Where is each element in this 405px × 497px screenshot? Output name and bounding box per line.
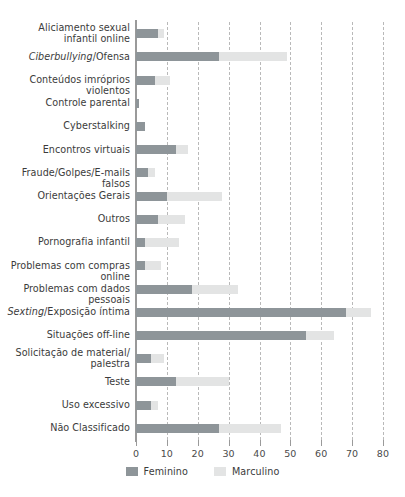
x-tick-label-50: 50 [284, 448, 297, 459]
bar-feminino [136, 192, 167, 201]
bar-feminino [136, 52, 219, 61]
bar-row [136, 168, 383, 177]
category-label-part: Ciberbullying [29, 51, 93, 62]
legend-item-feminino[interactable]: Feminino [126, 466, 188, 477]
bar-feminino [136, 424, 219, 433]
x-tick-30 [229, 440, 230, 446]
bar-feminino [136, 215, 158, 224]
gridline-80 [383, 22, 384, 440]
category-label: Uso excessivo [0, 399, 130, 410]
bar-feminino [136, 29, 158, 38]
category-label-line: Problemas com compras online [0, 260, 130, 283]
category-label: Encontros virtuais [0, 144, 130, 155]
bar-feminino [136, 331, 306, 340]
bar-feminino [136, 285, 192, 294]
category-label-line: Conteúdos imróprios violentos [0, 74, 130, 97]
category-label: Sexting/Exposição íntima [0, 306, 130, 317]
bar-row [136, 52, 383, 61]
category-label-line: Outros [0, 213, 130, 224]
x-tick-label-70: 70 [346, 448, 359, 459]
bar-row [136, 424, 383, 433]
category-label-line: Aliciamento sexual [0, 22, 130, 33]
bar-row [136, 261, 383, 270]
category-label: Solicitação de material/palestra [0, 347, 130, 370]
legend-swatch-icon [126, 467, 138, 476]
category-label: Outros [0, 213, 130, 224]
horizontal-bar-chart: Aliciamento sexualinfantil onlineCiberbu… [0, 0, 405, 497]
bar-feminino [136, 354, 151, 363]
bar-row [136, 145, 383, 154]
x-tick-label-30: 30 [222, 448, 235, 459]
category-label: Problemas com compras online [0, 260, 130, 283]
category-label-line: Encontros virtuais [0, 144, 130, 155]
bar-feminino [136, 377, 176, 386]
category-label: Problemas com dados pessoais [0, 283, 130, 306]
legend-label: Feminino [144, 466, 188, 477]
x-tick-70 [352, 440, 353, 446]
category-label: Situações off-line [0, 329, 130, 340]
category-label: Controle parental [0, 97, 130, 108]
bar-row [136, 192, 383, 201]
category-label-line: Cyberstalking [0, 120, 130, 131]
bar-row [136, 377, 383, 386]
x-tick-label-20: 20 [192, 448, 205, 459]
category-label: Fraude/Golpes/E-mails falsos [0, 167, 130, 190]
bar-row [136, 99, 383, 108]
x-tick-10 [167, 440, 168, 446]
category-label-line: Uso excessivo [0, 399, 130, 410]
x-tick-40 [260, 440, 261, 446]
bar-feminino [136, 401, 151, 410]
legend-swatch-icon [214, 467, 226, 476]
x-tick-label-60: 60 [315, 448, 328, 459]
category-label: Ciberbullying/Ofensa [0, 51, 130, 62]
x-tick-label-80: 80 [377, 448, 390, 459]
category-label-part: /Exposição íntima [44, 306, 130, 317]
category-label-part: /Ofensa [93, 51, 130, 62]
category-label-line: Não Classificado [0, 422, 130, 433]
plot-area: 01020304050607080 [136, 22, 383, 440]
x-tick-60 [321, 440, 322, 446]
legend-label: Marculino [232, 466, 279, 477]
bar-feminino [136, 76, 155, 85]
bar-feminino [136, 261, 145, 270]
bar-feminino [136, 238, 145, 247]
category-label-line: Controle parental [0, 97, 130, 108]
category-label-line: Fraude/Golpes/E-mails falsos [0, 167, 130, 190]
x-tick-label-10: 10 [161, 448, 174, 459]
category-label-line: Problemas com dados pessoais [0, 283, 130, 306]
category-label-line: Situações off-line [0, 329, 130, 340]
bar-row [136, 215, 383, 224]
category-label: Cyberstalking [0, 120, 130, 131]
category-label: Conteúdos imróprios violentos [0, 74, 130, 97]
bar-row [136, 76, 383, 85]
x-tick-50 [290, 440, 291, 446]
category-label: Pornografia infantil [0, 236, 130, 247]
x-tick-0 [136, 440, 137, 446]
category-label: Não Classificado [0, 422, 130, 433]
category-label-part: Sexting [7, 306, 44, 317]
x-tick-20 [198, 440, 199, 446]
category-label-line: Orientações Gerais [0, 190, 130, 201]
category-label-line: Pornografia infantil [0, 236, 130, 247]
category-label: Aliciamento sexualinfantil online [0, 22, 130, 45]
category-label: Orientações Gerais [0, 190, 130, 201]
bar-feminino [136, 122, 145, 131]
category-label-line: Teste [0, 376, 130, 387]
bar-feminino [136, 99, 139, 108]
legend-item-marculino[interactable]: Marculino [214, 466, 279, 477]
bar-row [136, 29, 383, 38]
bar-row [136, 238, 383, 247]
category-label-column: Aliciamento sexualinfantil onlineCiberbu… [0, 22, 130, 440]
bar-feminino [136, 308, 346, 317]
chart-legend: FemininoMarculino [0, 466, 405, 477]
x-tick-label-0: 0 [133, 448, 139, 459]
bar-row [136, 401, 383, 410]
bar-row [136, 285, 383, 294]
bar-row [136, 354, 383, 363]
category-label-line: palestra [0, 358, 130, 369]
bar-feminino [136, 145, 176, 154]
category-label-line: infantil online [0, 33, 130, 44]
bar-feminino [136, 168, 148, 177]
category-label-line: Solicitação de material/ [0, 347, 130, 358]
bar-row [136, 331, 383, 340]
